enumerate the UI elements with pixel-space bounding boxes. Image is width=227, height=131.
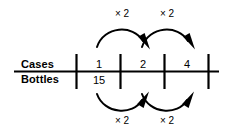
- cases-value-1: 1: [96, 58, 102, 70]
- diagram-canvas: Cases Bottles 1 2 4 15 × 2 × 2 × 2: [0, 0, 227, 131]
- bottom-operation-label-1: × 2: [115, 115, 130, 126]
- cases-value-3: 4: [184, 58, 190, 70]
- cases-value-2: 2: [140, 58, 146, 70]
- bottom-arrow-2: [142, 92, 194, 111]
- row-label-bottles: Bottles: [21, 73, 59, 85]
- top-operation-label-1: × 2: [115, 8, 130, 19]
- bottom-arrow-1-head: [137, 92, 149, 109]
- bottom-arrow-2-arc: [142, 94, 187, 111]
- bottom-operation-label-2: × 2: [160, 115, 175, 126]
- top-arrow-2-head: [183, 33, 195, 50]
- bottom-arrow-1-arc: [97, 94, 142, 111]
- double-number-line-diagram: Cases Bottles 1 2 4 15 × 2 × 2 × 2: [0, 0, 227, 131]
- top-arrow-2: [142, 30, 195, 50]
- top-arrow-2-arc: [142, 30, 188, 47]
- top-operation-label-2: × 2: [160, 8, 175, 19]
- top-arrow-1-arc: [97, 30, 143, 47]
- bottom-arrow-2-head: [182, 92, 194, 109]
- row-label-cases: Cases: [21, 58, 54, 70]
- bottles-value-1: 15: [93, 74, 105, 86]
